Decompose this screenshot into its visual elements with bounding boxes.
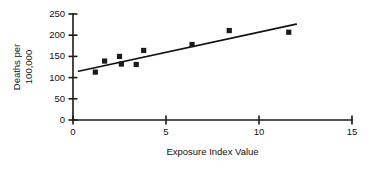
- trend-line: [79, 24, 297, 71]
- plot-area: Deaths per100,000 050100150200250 051015…: [0, 0, 377, 170]
- y-tick-label: 50: [54, 93, 65, 104]
- regression-line: [79, 24, 297, 71]
- x-tick-label: 15: [347, 126, 358, 137]
- data-point-marker: [117, 54, 122, 59]
- y-tick-label: 200: [49, 29, 65, 40]
- y-axis-title-line-2: 100,000: [23, 50, 34, 84]
- data-point-marker: [102, 58, 107, 63]
- x-tick-label: 0: [70, 126, 75, 137]
- data-point-marker: [141, 48, 146, 53]
- y-axis-title-line-1: Deaths per: [11, 44, 22, 90]
- data-point-marker: [286, 30, 291, 35]
- data-point-marker: [119, 61, 124, 66]
- data-points: [93, 28, 292, 75]
- x-tick-label: 5: [163, 126, 168, 137]
- data-point-marker: [227, 28, 232, 33]
- data-point-marker: [93, 69, 98, 74]
- y-tick-label: 150: [49, 50, 65, 61]
- x-tick-label: 10: [254, 126, 265, 137]
- axis-lines: [73, 14, 352, 120]
- y-tick-label: 100: [49, 72, 65, 83]
- x-axis-title-label: Exposure Index Value: [166, 146, 258, 157]
- y-tick-label: 0: [60, 114, 65, 125]
- data-point-marker: [189, 42, 194, 47]
- data-point-marker: [134, 62, 139, 67]
- x-axis-title: Exposure Index Value: [166, 146, 258, 157]
- y-axis-title: Deaths per100,000: [11, 44, 34, 90]
- scatter-chart: Deaths per100,000 050100150200250 051015…: [0, 0, 377, 170]
- y-tick-label: 250: [49, 8, 65, 19]
- x-axis-ticks: 051015: [70, 116, 357, 138]
